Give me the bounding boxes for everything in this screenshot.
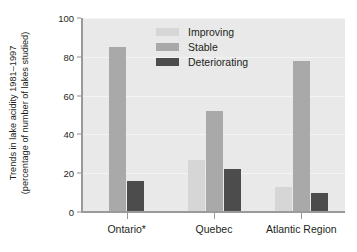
legend-swatch-icon — [156, 43, 179, 51]
lake-acidity-bar-chart: Trends in lake acidity 1981–1997 (percen… — [0, 0, 357, 252]
legend-swatch-icon — [156, 58, 179, 66]
x-tick-mark — [214, 213, 215, 219]
y-tick-label: 60 — [63, 90, 74, 101]
bar-ontario-deteriorating — [127, 181, 144, 212]
x-tick-label: Atlantic Region — [266, 223, 337, 235]
y-tick-label: 80 — [63, 51, 74, 62]
x-tick-label: Ontario* — [107, 223, 146, 235]
y-tick-label: 20 — [63, 168, 74, 179]
y-axis-title-line-1: Trends in lake acidity 1981–1997 — [7, 3, 19, 223]
x-tick-mark — [127, 213, 128, 219]
bar-atlanticregion-deteriorating — [311, 193, 328, 212]
bar-atlanticregion-improving — [275, 187, 292, 212]
bar-quebec-stable — [206, 111, 223, 212]
x-tick-mark — [301, 213, 302, 219]
legend-item-improving: Improving — [156, 24, 248, 39]
y-axis-title-line-2: (percentage of number of lakes studied) — [19, 3, 31, 223]
legend-label: Deteriorating — [188, 56, 248, 68]
y-tick-label: 40 — [63, 129, 74, 140]
chart-legend: ImprovingStableDeteriorating — [156, 24, 248, 69]
y-axis-ticks: 020406080100 — [40, 0, 81, 252]
x-axis-line — [81, 211, 345, 213]
bar-quebec-deteriorating — [224, 169, 241, 212]
legend-label: Improving — [188, 26, 234, 38]
gridline — [83, 18, 345, 19]
bar-quebec-improving — [188, 160, 205, 212]
legend-item-stable: Stable — [156, 39, 248, 54]
bar-atlanticregion-stable — [293, 61, 310, 212]
legend-label: Stable — [188, 41, 218, 53]
y-tick-label: 0 — [69, 207, 74, 218]
y-axis-title: Trends in lake acidity 1981–1997 (percen… — [0, 0, 38, 225]
legend-item-deteriorating: Deteriorating — [156, 54, 248, 69]
x-tick-label: Quebec — [196, 223, 233, 235]
bar-ontario-stable — [109, 47, 126, 212]
y-axis-line — [81, 18, 83, 213]
legend-swatch-icon — [156, 28, 179, 36]
y-tick-label: 100 — [58, 13, 74, 24]
